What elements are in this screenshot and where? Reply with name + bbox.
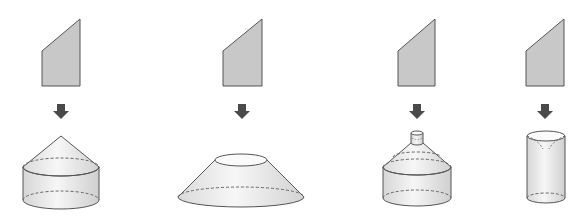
down-arrow-icon bbox=[537, 104, 553, 119]
down-arrow-icon bbox=[409, 104, 425, 119]
trapezoid-shape bbox=[42, 19, 80, 86]
figure-4 bbox=[526, 19, 565, 203]
figure-1 bbox=[23, 19, 99, 209]
solid-cone-on-cylinder bbox=[23, 136, 99, 209]
down-arrow-icon bbox=[53, 104, 69, 119]
trapezoid-shape bbox=[398, 19, 435, 86]
figure-3 bbox=[383, 19, 451, 206]
solid-frustum bbox=[178, 154, 304, 207]
solid-stacked bbox=[383, 131, 451, 206]
trapezoid-shape bbox=[526, 19, 564, 86]
figure-2 bbox=[178, 19, 304, 207]
diagram-canvas bbox=[0, 0, 583, 222]
trapezoid-shape bbox=[223, 19, 262, 86]
down-arrow-icon bbox=[234, 104, 250, 119]
solid-cylinder-with-cone-hollow bbox=[527, 131, 565, 203]
